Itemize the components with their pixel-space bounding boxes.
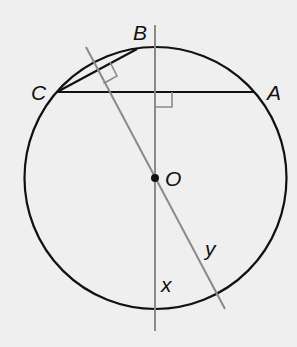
circle-diagram: B C A O y x	[0, 0, 297, 347]
label-y: y	[203, 237, 217, 260]
label-b: B	[133, 21, 147, 44]
right-angle-mark-x	[155, 92, 172, 107]
chord-cb	[57, 49, 137, 92]
label-x: x	[160, 273, 173, 296]
label-o: O	[165, 167, 181, 190]
center-point-o	[151, 174, 159, 182]
label-a: A	[265, 81, 281, 104]
label-c: C	[31, 81, 47, 104]
